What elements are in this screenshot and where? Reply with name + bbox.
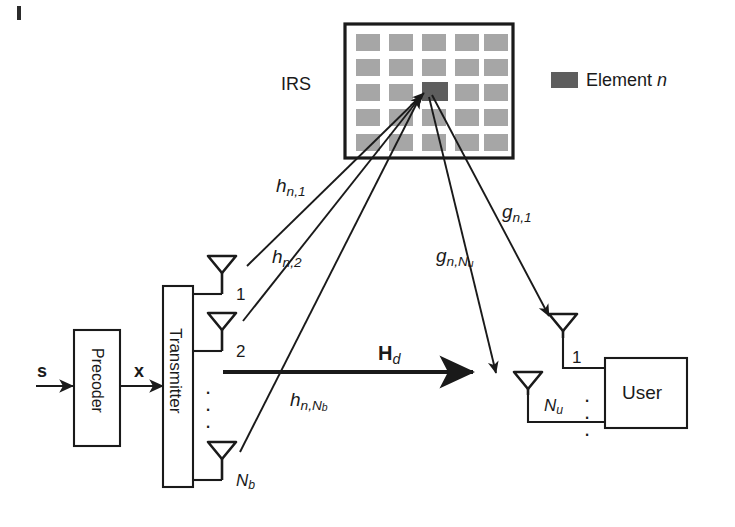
channel-h3-sub: n,N <box>301 398 322 413</box>
user-antenna-label-Nu-sub: u <box>556 403 563 417</box>
ray-h-n-1 <box>247 93 424 266</box>
channel-h3-base: h <box>290 389 301 410</box>
tx-antenna-label-Nb-sub: b <box>248 478 255 492</box>
channel-label-g-n-1: gn,1 <box>502 202 532 225</box>
signal-s-label: s <box>37 362 47 380</box>
channel-g2-sub2: u <box>468 258 474 269</box>
channel-Hd-sub: d <box>392 351 400 367</box>
channel-h3-sub2: b <box>322 402 328 413</box>
transmitter-label: Transmitter <box>167 328 184 413</box>
tx-antenna-Nb <box>208 442 236 480</box>
precoder-label: Precoder <box>89 348 105 413</box>
channel-label-h-n-2: hn,2 <box>272 247 302 270</box>
irs-element-highlighted <box>422 82 448 101</box>
channel-h2-sub: n,2 <box>283 255 302 270</box>
channel-h2-base: h <box>272 246 283 267</box>
channel-label-Hd: Hd <box>378 343 400 366</box>
tx-antenna-label-1: 1 <box>236 286 245 303</box>
figure-root: IRS Element n Precoder Transmitter s x 1… <box>0 0 735 527</box>
channel-label-g-n-Nu: gn,Nu <box>436 246 474 270</box>
legend-text: Element <box>586 70 652 90</box>
irs-label: IRS <box>281 75 311 93</box>
channel-h1-base: h <box>276 175 287 196</box>
irs-panel <box>345 24 513 158</box>
channel-label-h-n-Nb: hn,Nb <box>290 390 328 414</box>
tx-antenna-1 <box>208 256 236 294</box>
ray-h-n-Nb <box>240 97 420 452</box>
tx-antenna-dots: ... <box>199 378 217 429</box>
legend-label: Element n <box>586 71 667 89</box>
user-antenna-label-1: 1 <box>572 349 581 366</box>
user-antenna-label-Nu: Nu <box>544 397 563 417</box>
user-antenna-1 <box>549 314 577 338</box>
user-label: User <box>622 383 662 402</box>
channel-label-h-n-1: hn,1 <box>276 176 306 199</box>
user-antenna-dots: ... <box>578 386 596 437</box>
channel-g2-sub: n,N <box>447 254 468 269</box>
legend-text-italic: n <box>657 70 667 90</box>
tx-antennas <box>208 256 236 480</box>
channel-h1-sub: n,1 <box>287 184 306 199</box>
legend-swatch <box>551 72 578 88</box>
user-antenna-label-Nu-base: N <box>544 396 556 415</box>
signal-x-label: x <box>134 362 144 380</box>
channel-Hd-base: H <box>378 342 392 364</box>
channel-g1-base: g <box>502 201 513 222</box>
user-antenna-Nu <box>514 372 542 395</box>
tx-antenna-2 <box>208 313 236 351</box>
channel-g1-sub: n,1 <box>513 210 532 225</box>
tx-antenna-label-Nb-base: N <box>236 471 248 490</box>
user-antennas <box>514 314 577 395</box>
tx-antenna-label-Nb: Nb <box>236 472 255 492</box>
ray-h-n-2 <box>243 95 422 321</box>
channel-g2-base: g <box>436 245 447 266</box>
tx-antenna-label-2: 2 <box>236 343 245 360</box>
